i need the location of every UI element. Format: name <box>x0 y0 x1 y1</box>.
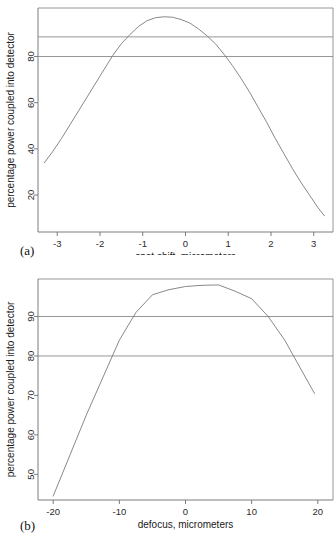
x-tick-label-1: -10 <box>112 506 126 517</box>
x-tick-label-3: 0 <box>183 238 188 249</box>
panel-label-a: (a) <box>20 243 34 259</box>
x-tick-label-2: 0 <box>183 506 188 517</box>
x-tick-label-3: 10 <box>246 506 257 517</box>
figure-container: -3-2-1012320406080spot shift, micrometer… <box>0 0 336 538</box>
x-tick-label-4: 20 <box>312 506 323 517</box>
y-axis-title: percentage power coupled into detector <box>5 301 16 477</box>
y-axis-title: percentage power coupled into detector <box>5 32 16 208</box>
x-tick-label-2: -1 <box>139 238 147 249</box>
y-tick-label-3: 80 <box>25 51 36 62</box>
y-tick-label-3: 80 <box>25 351 36 362</box>
panel-label-b: (b) <box>20 518 35 534</box>
y-tick-label-2: 70 <box>25 390 36 401</box>
y-tick-label-1: 60 <box>25 430 36 441</box>
x-tick-label-5: 2 <box>268 238 273 249</box>
x-axis-title: spot shift, micrometers <box>135 251 236 255</box>
x-tick-label-6: 3 <box>311 238 316 249</box>
y-tick-label-0: 20 <box>25 190 36 201</box>
chart-panel-b: -20-10010205060708090defocus, micrometer… <box>0 262 336 538</box>
data-curve-0 <box>44 17 324 216</box>
x-tick-label-0: -20 <box>46 506 60 517</box>
x-tick-label-4: 1 <box>226 238 231 249</box>
chart-b-svg: -20-10010205060708090defocus, micrometer… <box>0 262 336 538</box>
chart-panel-a: -3-2-1012320406080spot shift, micrometer… <box>0 0 336 255</box>
x-tick-label-0: -3 <box>53 238 61 249</box>
x-axis-title: defocus, micrometers <box>138 519 234 530</box>
y-tick-label-4: 90 <box>25 311 36 322</box>
x-tick-label-1: -2 <box>96 238 104 249</box>
y-tick-label-0: 50 <box>25 469 36 480</box>
y-tick-label-1: 40 <box>25 144 36 155</box>
y-tick-label-2: 60 <box>25 97 36 108</box>
chart-a-svg: -3-2-1012320406080spot shift, micrometer… <box>0 0 336 255</box>
